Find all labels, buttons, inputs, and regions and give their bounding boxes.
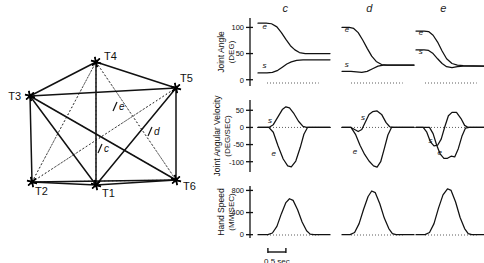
curve-hand-speed-d-speed xyxy=(342,191,414,235)
column-header-c: c xyxy=(283,2,289,14)
curve-joint-angular-velocity-c-e xyxy=(258,127,330,166)
column-header-d: d xyxy=(366,2,373,14)
curve-label-joint-angular-velocity-c-e: e xyxy=(272,149,277,158)
curve-label-joint-angular-velocity-d-e: e xyxy=(353,147,358,156)
curve-hand-speed-e-speed xyxy=(416,189,484,235)
diagram-path-label-e: e xyxy=(113,101,125,112)
diagram-target-label-t6: T6 xyxy=(183,180,196,192)
target-marker-dot xyxy=(94,183,98,187)
y-tick-label: -100 xyxy=(229,158,244,167)
path-label-leader xyxy=(98,144,102,153)
y-axis-title: Joint Angular Velocity xyxy=(212,95,222,177)
y-axis-units: (DEG/SEC) xyxy=(223,115,232,157)
curve-hand-speed-c-speed xyxy=(258,199,330,235)
target-marker-dot xyxy=(94,60,98,64)
curve-label-joint-angle-c-s: s xyxy=(263,61,267,70)
time-scale-bar: 0.5 sec xyxy=(264,248,290,263)
scale-bar-label: 0.5 sec xyxy=(264,257,290,263)
target-marker-dot xyxy=(30,180,34,184)
curve-label-joint-angle-e-e: e xyxy=(419,28,424,37)
y-tick-label: 0 xyxy=(240,230,244,239)
target-marker-dot xyxy=(174,86,178,90)
diagram-path-solid xyxy=(30,96,176,180)
target-marker-dot xyxy=(28,94,32,98)
diagram-path-label-d: d xyxy=(148,126,160,137)
y-tick-label: 0 xyxy=(240,76,244,85)
diagram-path-label-c: c xyxy=(98,143,109,154)
y-axis-label-joint-angle: Joint Angle(DEG) xyxy=(216,31,236,73)
curve-label-joint-angular-velocity-d-s: s xyxy=(361,113,365,122)
target-marker-dot xyxy=(174,178,178,182)
curve-label-joint-angle-d-e: e xyxy=(345,25,350,34)
plots-canvas: cde050100Joint Angle(DEG)eseses500-50-10… xyxy=(210,0,484,263)
curve-joint-angle-d-e xyxy=(342,27,414,65)
diagram-path-dotted xyxy=(96,62,176,180)
y-tick-label: 0 xyxy=(240,123,244,132)
y-tick-label: 50 xyxy=(236,49,244,58)
y-tick-label: 100 xyxy=(231,23,244,32)
y-axis-title: Joint Angle xyxy=(216,31,226,73)
curve-label-joint-angle-d-s: s xyxy=(345,60,349,69)
y-tick-label: -50 xyxy=(233,140,244,149)
path-label-text: d xyxy=(154,126,160,137)
diagram-canvas: T1T2T3T4T5T6cde xyxy=(0,0,210,263)
diagram-target-label-t4: T4 xyxy=(104,50,117,62)
diagram-path-solid xyxy=(96,88,176,185)
curve-joint-angle-c-e xyxy=(258,23,330,53)
target-workspace-diagram: T1T2T3T4T5T6cde xyxy=(0,0,210,263)
diagram-target-label-t1: T1 xyxy=(102,187,115,199)
curve-label-joint-angle-c-e: e xyxy=(263,22,268,31)
y-axis-label-hand-speed: Hand Speed(MM/SEC) xyxy=(216,188,236,236)
figure-root: T1T2T3T4T5T6cde cde050100Joint Angle(DEG… xyxy=(0,0,484,263)
diagram-path-solid xyxy=(96,62,176,88)
diagram-path-solid xyxy=(30,62,96,96)
curve-joint-angle-e-s xyxy=(416,50,484,68)
curve-joint-angle-e-e xyxy=(416,31,484,66)
diagram-target-label-t3: T3 xyxy=(8,90,21,102)
diagram-target-label-t5: T5 xyxy=(180,72,193,84)
diagram-target-label-t2: T2 xyxy=(35,185,48,197)
curve-label-joint-angle-e-s: s xyxy=(419,47,423,56)
diagram-path-solid xyxy=(30,96,96,185)
path-label-text: c xyxy=(104,143,109,154)
curve-label-joint-angular-velocity-e-e: e xyxy=(438,148,443,157)
column-header-e: e xyxy=(440,2,446,14)
curve-joint-angle-c-s xyxy=(258,60,330,73)
diagram-path-solid xyxy=(30,88,176,96)
curve-joint-angular-velocity-d-s xyxy=(342,111,414,132)
curve-joint-angle-d-s xyxy=(342,65,414,72)
diagram-path-solid xyxy=(30,96,32,182)
y-axis-title: Hand Speed xyxy=(216,188,226,236)
kinematics-plot-grid: cde050100Joint Angle(DEG)eseses500-50-10… xyxy=(210,0,484,263)
diagram-path-dotted xyxy=(32,62,96,182)
curve-label-joint-angular-velocity-c-s: s xyxy=(268,116,272,125)
curve-label-joint-angular-velocity-e-s: s xyxy=(429,136,433,145)
curve-joint-angular-velocity-e-s xyxy=(416,112,484,146)
y-axis-units: (DEG) xyxy=(227,40,236,63)
y-axis-units: (MM/SEC) xyxy=(227,193,236,231)
path-label-leader xyxy=(113,102,117,111)
path-label-leader xyxy=(148,127,152,136)
path-label-text: e xyxy=(119,101,125,112)
y-tick-label: 50 xyxy=(236,106,244,115)
